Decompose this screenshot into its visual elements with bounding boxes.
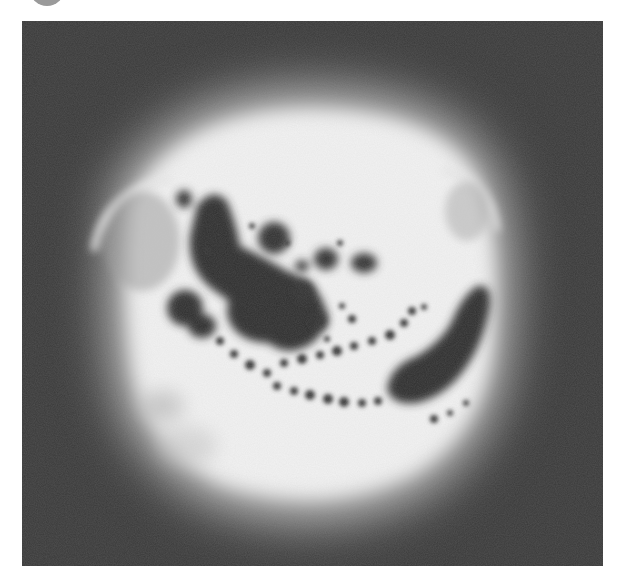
corner-circle-fragment (30, 0, 64, 6)
solar-image (22, 21, 603, 566)
grain-overlay (22, 21, 603, 566)
solar-disc-graphic (22, 21, 603, 566)
